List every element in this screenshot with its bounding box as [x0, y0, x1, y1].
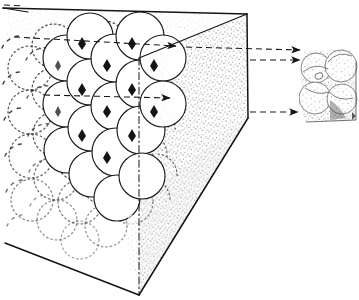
sphere [119, 153, 165, 199]
sphere-lattice-illustration [0, 0, 359, 300]
edge-right-vertical [247, 14, 248, 118]
inset-sphere [325, 50, 357, 82]
sphere [140, 81, 186, 127]
inset-sphere [299, 82, 331, 114]
magnified-detail-inset [299, 48, 357, 122]
figure-root [0, 0, 359, 300]
